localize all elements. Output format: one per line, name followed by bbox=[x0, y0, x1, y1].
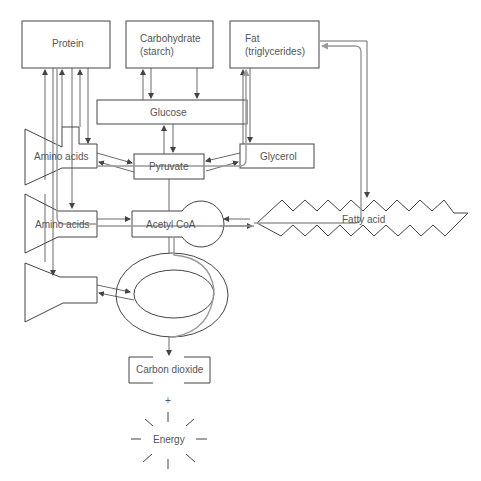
glucose-label: Glucose bbox=[150, 107, 187, 118]
carbohydrate-label-1: Carbohydrate bbox=[140, 33, 201, 44]
carbohydrate-box bbox=[126, 21, 213, 68]
plus-sign: + bbox=[165, 395, 171, 406]
glycerol-label: Glycerol bbox=[260, 151, 297, 162]
metabolism-diagram: Protein Carbohydrate (starch) Fat (trigl… bbox=[0, 0, 481, 481]
protein-label: Protein bbox=[52, 38, 84, 49]
acetyl-coa-label: Acetyl CoA bbox=[146, 219, 196, 230]
energy-label: Energy bbox=[153, 434, 185, 445]
fatty-acid-label: Fatty acid bbox=[342, 214, 385, 225]
krebs-cycle-outer bbox=[116, 253, 228, 337]
carbon-dioxide-label: Carbon dioxide bbox=[136, 364, 204, 375]
fat-box bbox=[230, 21, 319, 68]
fat-label-2: (triglycerides) bbox=[245, 46, 305, 57]
funnel-3 bbox=[25, 263, 97, 322]
krebs-cycle-inner bbox=[134, 270, 214, 318]
amino-acids-label-1: Amino acids bbox=[34, 151, 88, 162]
amino-acids-label-2: Amino acids bbox=[35, 219, 89, 230]
fat-label-1: Fat bbox=[245, 33, 260, 44]
pyruvate-label: Pyruvate bbox=[149, 161, 189, 172]
carbohydrate-label-2: (starch) bbox=[140, 46, 174, 57]
